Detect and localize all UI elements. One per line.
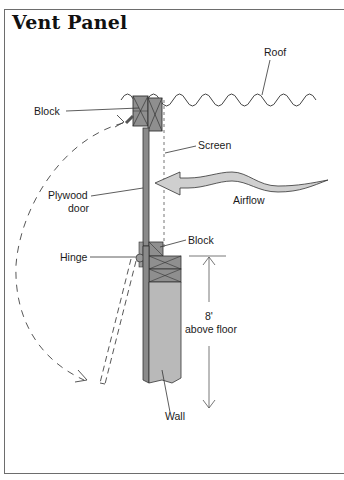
height-label-line2: above floor <box>185 323 237 335</box>
airflow-label: Airflow <box>233 194 265 206</box>
wall-top-plate <box>149 256 181 282</box>
block-top-leader <box>66 108 139 111</box>
screen-leader <box>165 146 196 153</box>
hinge-label: Hinge <box>60 251 88 263</box>
height-label-line1: 8' <box>205 310 213 322</box>
plywood-label-line2: door <box>68 202 90 214</box>
roof-leader <box>262 60 270 95</box>
block-bottom-leader <box>160 240 186 247</box>
plywood-label-line1: Plywood <box>48 189 88 201</box>
bottom-block <box>149 242 163 256</box>
top-block-left <box>133 96 148 126</box>
block-bottom-label: Block <box>188 234 214 246</box>
arc-arrowhead-bottom <box>75 370 87 382</box>
airflow-arrow <box>155 172 328 195</box>
block-top-label: Block <box>34 105 60 117</box>
screen-label: Screen <box>198 139 231 151</box>
plywood-leader <box>91 188 143 196</box>
door-open-position <box>100 259 136 384</box>
roof-label: Roof <box>264 46 286 58</box>
latch-stub <box>126 116 133 123</box>
wall-label: Wall <box>165 410 185 422</box>
top-block-right <box>148 98 162 131</box>
